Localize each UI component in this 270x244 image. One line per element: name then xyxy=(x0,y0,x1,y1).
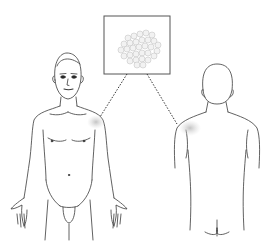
medical-illustration: Medical illustration of a male figure, f… xyxy=(0,0,270,244)
front-figure xyxy=(11,53,127,240)
leader-lines xyxy=(100,74,177,124)
back-figure xyxy=(174,64,259,236)
inset-magnified-rash xyxy=(104,16,170,74)
illustration-svg xyxy=(0,0,270,244)
